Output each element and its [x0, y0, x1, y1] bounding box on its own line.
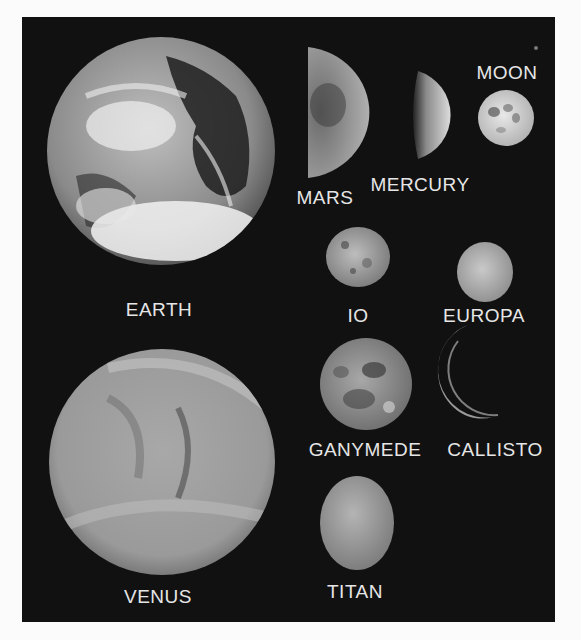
- venus-label: VENUS: [124, 587, 192, 606]
- ganymede-image: [319, 337, 413, 431]
- venus-image: [48, 348, 276, 576]
- titan-label: TITAN: [327, 582, 383, 601]
- star-dot: [534, 46, 538, 50]
- earth-label: EARTH: [126, 300, 193, 319]
- moon-image: [476, 88, 536, 148]
- mercury-image: [408, 69, 464, 161]
- io-image: [325, 225, 391, 289]
- planets-comparison-panel: EARTH MARS MERCURY: [22, 17, 555, 622]
- callisto-label: CALLISTO: [447, 440, 543, 459]
- mars-label: MARS: [297, 188, 354, 207]
- ganymede-label: GANYMEDE: [309, 440, 422, 459]
- earth-image: [46, 36, 276, 266]
- titan-image: [319, 475, 395, 571]
- callisto-image: [438, 321, 508, 419]
- mercury-label: MERCURY: [370, 175, 469, 194]
- moon-label: MOON: [476, 63, 537, 82]
- europa-image: [456, 241, 514, 303]
- io-label: IO: [347, 306, 368, 325]
- mars-image: [306, 45, 381, 180]
